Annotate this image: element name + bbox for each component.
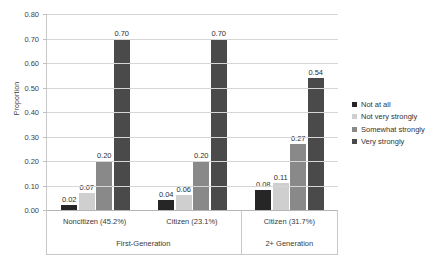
y-axis-tick-label: 0.30	[24, 132, 39, 141]
y-axis-tick-label: 0.40	[24, 108, 39, 117]
bar	[290, 144, 306, 210]
category-row-primary: Noncitizen (45.2%)Citizen (23.1%)Citizen…	[46, 210, 338, 232]
category-label: Noncitizen (45.2%)	[46, 210, 143, 232]
legend-item: Very strongly	[352, 136, 432, 149]
bar-value-label: 0.06	[176, 185, 191, 194]
bar	[79, 193, 95, 210]
y-axis-tick-label: 0.10	[24, 181, 39, 190]
y-axis-tick-label: 0.80	[24, 10, 39, 19]
legend-item: Not at all	[352, 98, 432, 111]
legend-swatch-icon	[352, 114, 357, 119]
gridline	[47, 63, 338, 64]
category-axis: Noncitizen (45.2%)Citizen (23.1%)Citizen…	[46, 210, 338, 254]
gridline	[47, 39, 338, 40]
bar-value-label: 0.07	[79, 183, 94, 192]
bar	[114, 39, 130, 211]
bar	[255, 190, 271, 210]
bar-value-label: 0.11	[274, 173, 288, 182]
y-axis-tick-label: 0.20	[24, 157, 39, 166]
legend-label: Very strongly	[361, 137, 404, 146]
bar	[308, 78, 324, 210]
legend-label: Not very strongly	[361, 112, 417, 121]
gridline	[47, 112, 338, 113]
y-axis-tick-label: 0.60	[24, 59, 39, 68]
bar	[158, 200, 174, 210]
category-label: Citizen (31.7%)	[241, 210, 338, 232]
bar-value-label: 0.02	[62, 195, 77, 204]
legend-item: Not very strongly	[352, 111, 432, 124]
legend: Not at allNot very stronglySomewhat stro…	[352, 98, 432, 148]
plot-area: 0.020.070.200.700.040.060.200.700.080.11…	[46, 14, 338, 210]
legend-label: Not at all	[361, 100, 391, 109]
y-axis-tick-labels: 0.800.700.600.500.400.300.200.100.00	[0, 0, 42, 262]
group-label: 2+ Generation	[241, 232, 338, 254]
y-axis-tick-label: 0.50	[24, 83, 39, 92]
gridline	[47, 186, 338, 187]
bar-value-label: 0.20	[194, 151, 209, 160]
bar-value-label: 0.20	[97, 151, 112, 160]
group-separator	[241, 210, 242, 254]
gridline	[47, 137, 338, 138]
bar-value-label: 0.04	[159, 190, 174, 199]
gridline	[47, 161, 338, 162]
category-axis-right-border	[337, 210, 338, 254]
y-axis-tick-label: 0.70	[24, 34, 39, 43]
legend-swatch-icon	[352, 139, 357, 144]
legend-swatch-icon	[352, 102, 357, 107]
bar	[273, 183, 289, 210]
category-row-groups: First-Generation2+ Generation	[46, 232, 338, 254]
category-axis-left-border	[46, 210, 47, 254]
gridline	[47, 88, 338, 89]
legend-item: Somewhat strongly	[352, 123, 432, 136]
bar	[176, 195, 192, 210]
category-label: Citizen (23.1%)	[143, 210, 240, 232]
bar-chart: Proportion 0.800.700.600.500.400.300.200…	[0, 0, 433, 262]
bar-value-label: 0.27	[291, 134, 306, 143]
bar-value-label: 0.70	[114, 29, 129, 38]
bar	[211, 39, 227, 211]
y-axis-tick-label: 0.00	[24, 206, 39, 215]
category-axis-bottom-border	[46, 254, 338, 255]
bar-value-label: 0.54	[308, 68, 323, 77]
group-label: First-Generation	[46, 232, 241, 254]
gridline	[47, 14, 338, 15]
legend-swatch-icon	[352, 127, 357, 132]
bar-value-label: 0.70	[211, 29, 226, 38]
legend-label: Somewhat strongly	[361, 125, 425, 134]
